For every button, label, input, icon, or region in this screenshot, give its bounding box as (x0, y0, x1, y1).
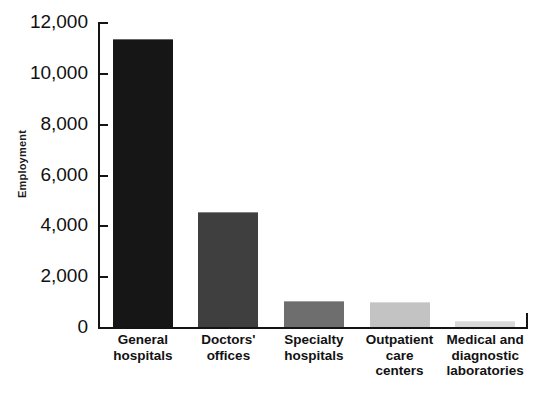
y-axis-tick-label: 8,000 (14, 113, 88, 135)
category-label-line: centers (353, 363, 447, 379)
x-axis-category-label: Medical anddiagnosticlaboratories (438, 332, 532, 379)
bar (284, 301, 344, 327)
y-axis-tick-labels: 12,00010,0008,0006,0004,0002,0000 (10, 0, 88, 394)
bar (198, 212, 258, 327)
bar (370, 302, 430, 327)
x-axis-category-label: Generalhospitals (96, 332, 190, 363)
category-label-line: Doctors' (182, 332, 276, 348)
y-axis-tick-label: 2,000 (14, 265, 88, 287)
category-label-line: hospitals (267, 348, 361, 364)
y-axis-tick-label: 4,000 (14, 214, 88, 236)
y-axis-tick-label: 12,000 (14, 11, 88, 33)
bar (455, 321, 515, 327)
plot-area (100, 22, 528, 327)
category-label-line: care (353, 348, 447, 364)
category-label-line: Specialty (267, 332, 361, 348)
category-label-line: hospitals (96, 348, 190, 364)
category-label-line: Outpatient (353, 332, 447, 348)
bar-chart-figure: Employment 12,00010,0008,0006,0004,0002,… (0, 0, 539, 394)
x-axis-category-label: Outpatientcarecenters (353, 332, 447, 379)
y-axis-tick-label: 0 (14, 316, 88, 338)
category-label-line: offices (182, 348, 276, 364)
category-label-line: General (96, 332, 190, 348)
y-axis-tick-label: 10,000 (14, 62, 88, 84)
x-axis-category-labels: GeneralhospitalsDoctors'officesSpecialty… (100, 332, 528, 394)
category-label-line: diagnostic (438, 348, 532, 364)
category-label-line: laboratories (438, 363, 532, 379)
category-label-line: Medical and (438, 332, 532, 348)
x-axis-category-label: Specialtyhospitals (267, 332, 361, 363)
bar (113, 39, 173, 327)
x-axis-category-label: Doctors'offices (182, 332, 276, 363)
y-axis-tick-label: 6,000 (14, 164, 88, 186)
x-axis-line (98, 327, 528, 329)
